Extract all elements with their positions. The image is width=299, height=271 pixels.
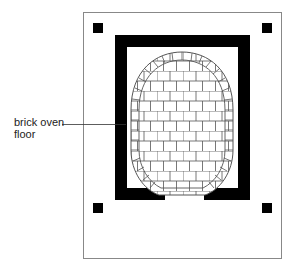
brick-oven-floor: [131, 51, 233, 196]
corner-post-top-right: [262, 23, 272, 33]
corner-post-bottom-left: [93, 203, 103, 213]
brick-oven-floor-label: brick oven floor: [14, 116, 64, 140]
label-line-2: floor: [14, 128, 64, 140]
corner-post-bottom-right: [262, 203, 272, 213]
corner-post-top-left: [93, 23, 103, 33]
label-line-1: brick oven: [14, 116, 64, 128]
